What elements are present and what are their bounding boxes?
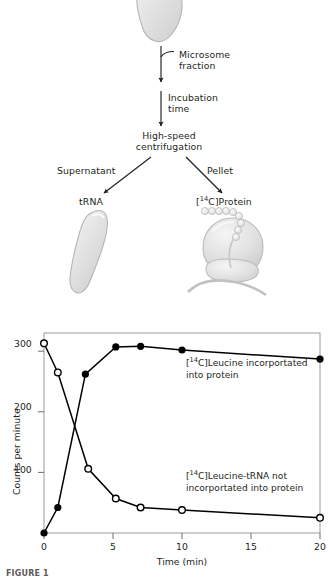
x-tick-label-15: 15 bbox=[241, 541, 261, 552]
series-label-trna-line2: incorportated into protein bbox=[186, 483, 303, 493]
x-tick-label-0: 0 bbox=[34, 541, 54, 552]
ribosome-protein-icon bbox=[188, 208, 266, 296]
series-label-protein-rest: C]Leucine incorportated bbox=[198, 358, 308, 368]
figure-panel: Microsome fraction Incubation time High-… bbox=[0, 0, 328, 577]
y-tick-label-200: 200 bbox=[14, 401, 32, 412]
label-c14-protein: [14C]Protein bbox=[196, 196, 252, 207]
series-label-protein-line2: into protein bbox=[186, 370, 239, 380]
x-axis-ticks bbox=[44, 533, 320, 539]
series-label-trna-rest: C]Leucine-tRNA not bbox=[198, 471, 287, 481]
experiment-schematic: Microsome fraction Incubation time High-… bbox=[0, 0, 328, 300]
series-label-protein: [14C]Leucine incorportatedinto protein bbox=[186, 358, 308, 381]
x-axis-title: Time (min) bbox=[44, 556, 320, 567]
x-tick-label-20: 20 bbox=[310, 541, 328, 552]
label-microsome-fraction: Microsome fraction bbox=[179, 49, 230, 72]
y-axis-title: Counts per minute bbox=[11, 408, 22, 495]
figure-caption-partial: FIGURE 1 bbox=[6, 569, 324, 577]
label-pellet: Pellet bbox=[207, 165, 233, 176]
x-tick-label-5: 5 bbox=[103, 541, 123, 552]
series-label-trna: [14C]Leucine-tRNA notincorportated into … bbox=[186, 471, 303, 494]
series-label-protein-isotope: 14 bbox=[190, 356, 198, 364]
label-c14-protein-rest: C]Protein bbox=[208, 196, 252, 207]
label-supernatant: Supernatant bbox=[57, 165, 116, 176]
x-tick-label-10: 10 bbox=[172, 541, 192, 552]
y-tick-label-100: 100 bbox=[14, 464, 32, 475]
chart-graphics bbox=[0, 300, 328, 577]
counts-vs-time-chart: Counts per minute 100 200 300 0 5 10 15 … bbox=[0, 300, 328, 577]
trna-shape-icon bbox=[70, 211, 107, 293]
label-trna: tRNA bbox=[66, 196, 116, 207]
y-axis-ticks bbox=[38, 351, 44, 472]
series-label-trna-isotope: 14 bbox=[190, 469, 198, 477]
label-incubation-time: Incubation time bbox=[168, 92, 218, 115]
microsome-blob-icon bbox=[137, 0, 182, 42]
y-tick-label-300: 300 bbox=[14, 338, 32, 349]
label-high-speed-centrifugation: High-speed centrifugation bbox=[104, 130, 234, 153]
